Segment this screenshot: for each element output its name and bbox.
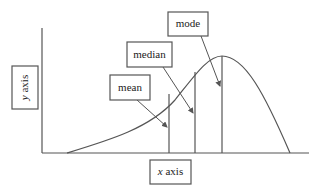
mode-arrow	[201, 36, 220, 86]
distribution-curve	[67, 56, 290, 153]
mean-label: mean	[118, 81, 142, 93]
mode-label: mode	[176, 17, 201, 29]
mean-arrow	[137, 100, 167, 127]
median-arrow	[163, 67, 193, 113]
y-axis-label: y axis	[18, 75, 30, 101]
x-axis-label: x axis	[157, 165, 183, 177]
skewed-distribution-diagram: mode median mean x axis y axis	[0, 0, 319, 194]
median-label: median	[133, 48, 166, 60]
